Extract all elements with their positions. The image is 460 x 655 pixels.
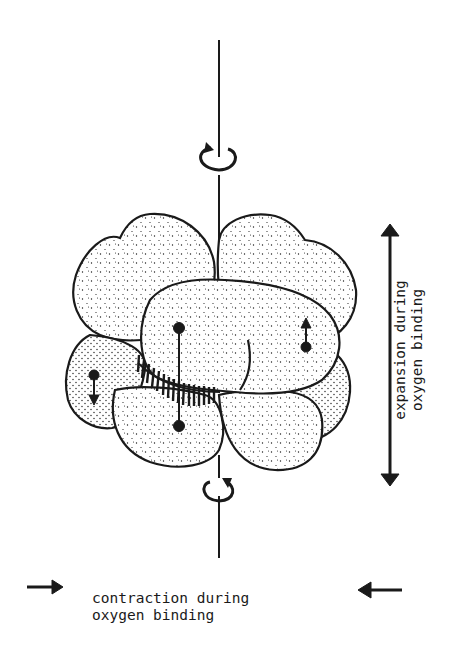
contraction-label-line-2: oxygen binding bbox=[92, 607, 214, 623]
contraction-arrow-left-icon bbox=[27, 580, 63, 594]
expansion-label: expansion during oxygen binding bbox=[392, 250, 426, 450]
contraction-arrow-right-icon bbox=[358, 582, 402, 598]
contraction-label: contraction during oxygen binding bbox=[92, 590, 249, 624]
expansion-label-line-2: oxygen binding bbox=[409, 289, 425, 411]
subunit-front-bottom-left bbox=[113, 387, 223, 467]
hemoglobin-diagram bbox=[0, 0, 460, 655]
contraction-label-line-1: contraction during bbox=[92, 590, 249, 606]
subunit-front-bottom-right bbox=[219, 391, 322, 470]
expansion-label-line-1: expansion during bbox=[392, 280, 408, 420]
